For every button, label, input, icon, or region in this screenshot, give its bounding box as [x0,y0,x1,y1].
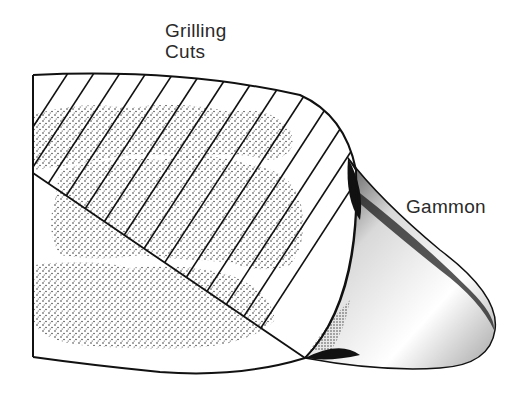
grilling-cuts-label: Grilling Cuts [165,20,227,62]
grilling-cuts-label-line1: Grilling [165,20,227,41]
gammon-label-line1: Gammon [406,196,486,217]
grilling-cuts-label-line2: Cuts [165,41,227,62]
gammon-knuckle [305,158,495,369]
meat-stipple [33,105,303,349]
gammon-label: Gammon [406,196,486,217]
